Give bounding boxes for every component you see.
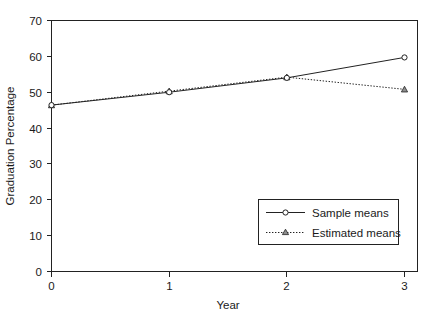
estimated-means-markers [48, 74, 407, 108]
x-axis-tick-labels: 0 1 2 3 [48, 280, 407, 292]
y-axis-title: Graduation Percentage [4, 87, 16, 206]
x-axis-title: Year [216, 299, 239, 311]
y-tick-label: 50 [29, 87, 42, 99]
y-tick-label: 10 [29, 230, 42, 242]
data-point-marker-triangle-icon [401, 86, 407, 92]
series-estimated-means [48, 74, 407, 108]
data-point-marker-circle-icon [49, 103, 54, 108]
x-axis-ticks [52, 272, 405, 277]
legend-marker-circle-icon [283, 210, 288, 215]
legend-label-sample-means: Sample means [312, 207, 389, 219]
data-point-marker-circle-icon [167, 90, 172, 95]
x-tick-label: 0 [48, 280, 54, 292]
estimated-means-line [52, 77, 405, 105]
y-tick-label: 30 [29, 158, 42, 170]
legend-label-estimated-means: Estimated means [312, 227, 401, 239]
y-tick-label: 60 [29, 51, 42, 63]
chart-legend: Sample means Estimated means [259, 200, 402, 245]
x-tick-label: 2 [283, 280, 289, 292]
y-tick-label: 0 [36, 266, 42, 278]
data-point-marker-circle-icon [284, 75, 289, 80]
y-tick-label: 20 [29, 194, 42, 206]
y-axis-tick-labels: 0 10 20 30 40 50 60 70 [29, 15, 42, 278]
x-tick-label: 3 [401, 280, 407, 292]
y-tick-label: 40 [29, 123, 42, 135]
line-chart: 0 10 20 30 40 50 60 70 0 1 2 3 Year Grad… [0, 0, 437, 319]
chart-canvas: 0 10 20 30 40 50 60 70 0 1 2 3 Year Grad… [0, 0, 437, 319]
y-tick-label: 70 [29, 15, 42, 27]
y-axis-ticks [47, 21, 52, 272]
sample-means-line [52, 57, 405, 105]
series-sample-means [49, 55, 407, 108]
data-point-marker-circle-icon [402, 55, 407, 60]
x-tick-label: 1 [166, 280, 172, 292]
